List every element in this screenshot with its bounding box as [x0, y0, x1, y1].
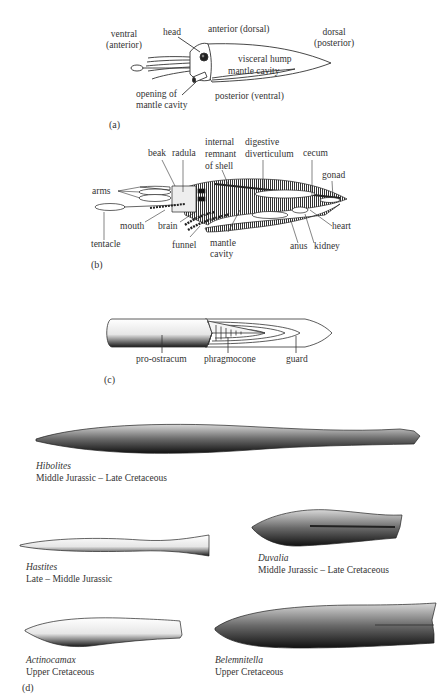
label-dorsal-posterior: dorsal (posterior): [314, 27, 354, 49]
label-ventral-anterior: ventral (anterior): [106, 29, 142, 51]
label-radula: radula: [172, 148, 196, 159]
geologic-range: Upper Cretaceous: [26, 667, 94, 677]
actinocamax-drawing: [25, 618, 182, 647]
label-cecum: cecum: [303, 148, 328, 159]
label-remnant: remnant: [205, 148, 236, 160]
genus-name: Hibolites: [36, 460, 167, 472]
panel-letter-d: (d): [22, 682, 34, 693]
label-anterior-dorsal: anterior (dorsal): [208, 24, 269, 35]
label-cavity: cavity: [210, 249, 236, 260]
label-brain: brain: [158, 221, 178, 232]
geologic-range: Middle Jurassic – Late Cretaceous: [36, 473, 167, 483]
genus-name: Actinocamax: [26, 654, 94, 666]
specimen-actinocamax: Actinocamax Upper Cretaceous: [26, 654, 94, 678]
label-opening-mantle-cavity: opening of mantle cavity: [136, 89, 187, 111]
label-tentacle: tentacle: [91, 239, 121, 250]
label-of-shell: of shell: [205, 160, 236, 172]
belemnite-section-drawing: [107, 319, 332, 353]
label-guard: guard: [286, 354, 308, 365]
panel-letter-a: (a): [109, 119, 120, 130]
label-kidney: kidney: [314, 241, 340, 252]
label-mouth: mouth: [120, 221, 144, 232]
label-anterior-paren: (anterior): [106, 40, 142, 51]
label-gonad: gonad: [322, 170, 345, 181]
label-dorsal: dorsal: [314, 27, 354, 38]
label-mantle-cavity-opening: mantle cavity: [136, 100, 187, 111]
specimen-hibolites: Hibolites Middle Jurassic – Late Cretace…: [36, 460, 167, 484]
label-pro-ostracum: pro-ostracum: [136, 354, 187, 365]
label-posterior-paren: (posterior): [314, 38, 354, 49]
label-phragmocone: phragmocone: [204, 354, 256, 365]
label-posterior-ventral: posterior (ventral): [215, 91, 284, 102]
genus-name: Duvalia: [258, 552, 389, 564]
label-diverticulum: diverticulum: [245, 148, 294, 160]
genus-name: Belemnitella: [215, 654, 283, 666]
specimen-hastites: Hastites Late – Middle Jurassic: [26, 561, 112, 585]
label-internal: internal: [205, 136, 236, 148]
label-internal-remnant-of-shell: internal remnant of shell: [205, 136, 236, 172]
label-beak: beak: [148, 148, 166, 159]
specimen-duvalia: Duvalia Middle Jurassic – Late Cretaceou…: [258, 552, 389, 576]
duvalia-drawing: [252, 510, 402, 546]
label-heart: heart: [332, 221, 351, 232]
label-funnel: funnel: [172, 240, 196, 251]
label-digestive: digestive: [245, 136, 294, 148]
label-mantle: mantle: [210, 238, 236, 249]
specimen-belemnitella: Belemnitella Upper Cretaceous: [215, 654, 283, 678]
label-head: head: [163, 27, 181, 38]
geologic-range: Late – Middle Jurassic: [26, 574, 112, 584]
figure-drawings: [0, 0, 445, 699]
geologic-range: Upper Cretaceous: [215, 667, 283, 677]
panel-letter-b: (b): [91, 259, 103, 270]
label-arms: arms: [92, 186, 110, 197]
label-mantle-cavity-b: mantle cavity: [210, 238, 236, 260]
geologic-range: Middle Jurassic – Late Cretaceous: [258, 565, 389, 575]
label-digestive-diverticulum: digestive diverticulum: [245, 136, 294, 160]
label-mantle-cavity-a: mantle cavity: [228, 66, 279, 77]
genus-name: Hastites: [26, 561, 112, 573]
label-visceral-hump: visceral hump: [238, 54, 292, 65]
hastites-drawing: [20, 535, 209, 556]
label-opening-of: opening of: [136, 89, 187, 100]
belemnitella-drawing: [215, 603, 436, 648]
label-anus: anus: [290, 241, 307, 252]
hibolites-drawing: [36, 424, 420, 453]
label-ventral: ventral: [106, 29, 142, 40]
panel-letter-c: (c): [104, 374, 115, 385]
